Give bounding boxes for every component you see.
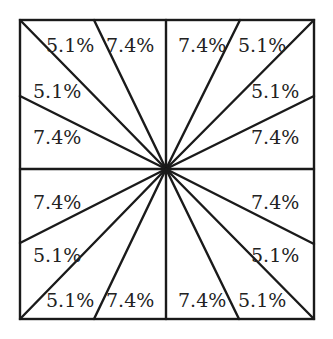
diagram-lines <box>20 20 314 319</box>
sector-label: 7.4% <box>33 126 81 148</box>
sector-label: 7.4% <box>178 34 226 56</box>
sector-label: 5.1% <box>33 244 81 266</box>
sector-label: 5.1% <box>251 80 299 102</box>
sector-label: 5.1% <box>46 34 94 56</box>
sector-label: 5.1% <box>33 80 81 102</box>
sector-label: 7.4% <box>33 191 81 213</box>
sector-label: 7.4% <box>106 34 154 56</box>
sector-label: 5.1% <box>251 244 299 266</box>
sector-label: 7.4% <box>251 126 299 148</box>
sector-label: 5.1% <box>46 289 94 311</box>
sector-label: 7.4% <box>251 191 299 213</box>
sector-label: 7.4% <box>178 289 226 311</box>
sector-label: 5.1% <box>238 289 286 311</box>
sector-label: 5.1% <box>238 34 286 56</box>
sector-diagram: 5.1%7.4%7.4%5.1%5.1%5.1%7.4%7.4%7.4%7.4%… <box>0 0 333 339</box>
sector-label: 7.4% <box>106 289 154 311</box>
